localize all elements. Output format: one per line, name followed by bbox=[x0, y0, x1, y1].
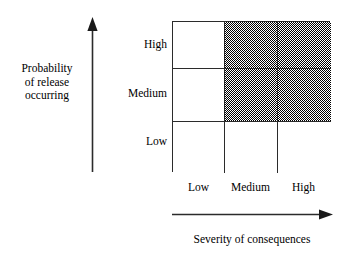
y-axis-title-line-1: Probability bbox=[8, 62, 86, 76]
x-axis-label-medium: Medium bbox=[224, 181, 277, 194]
matrix-cell-high-low bbox=[173, 22, 225, 69]
matrix-cell-high-medium bbox=[225, 22, 278, 69]
y-axis-title: Probability of release occurring bbox=[8, 62, 86, 103]
matrix-cell-medium-high bbox=[278, 69, 331, 122]
right-arrow-icon bbox=[172, 209, 333, 219]
y-axis-label-high: High bbox=[77, 38, 167, 51]
y-axis-title-line-3: occurring bbox=[8, 89, 86, 103]
y-axis-label-medium: Medium bbox=[77, 87, 167, 100]
y-axis-label-low: Low bbox=[77, 135, 167, 148]
risk-matrix-grid bbox=[172, 21, 330, 172]
matrix-cell-high-high bbox=[278, 22, 331, 69]
risk-matrix-figure: High Medium Low Low Medium High Probabil… bbox=[0, 0, 344, 263]
matrix-cell-medium-low bbox=[173, 69, 225, 122]
matrix-cell-low-high bbox=[278, 122, 331, 173]
x-axis-label-high: High bbox=[277, 181, 330, 194]
matrix-cell-low-medium bbox=[225, 122, 278, 173]
x-axis-title: Severity of consequences bbox=[160, 233, 344, 246]
x-axis-label-low: Low bbox=[172, 181, 225, 194]
y-axis-title-line-2: of release bbox=[8, 76, 86, 90]
matrix-cell-low-low bbox=[173, 122, 225, 173]
matrix-cell-medium-medium bbox=[225, 69, 278, 122]
